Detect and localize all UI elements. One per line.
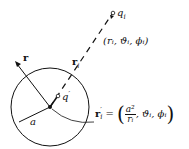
label-coords-i: (rᵢ, ϑᵢ, ϕᵢ) <box>103 36 148 46</box>
label-a: a <box>30 117 36 127</box>
label-qprime: q′ <box>62 91 70 102</box>
diagram-canvas <box>0 0 189 149</box>
ri-dashed-line <box>50 14 112 107</box>
ri-arrowhead-icon <box>110 15 114 19</box>
label-ri-prime-equation: r′i = ( a² rᵢ , ϑᵢ, ϕᵢ ) <box>95 104 174 124</box>
r-vector-line <box>17 64 50 107</box>
r-arrowhead-icon <box>15 61 21 67</box>
label-ri: ri <box>72 57 80 70</box>
center-dot <box>48 105 52 109</box>
label-r: r <box>23 53 28 63</box>
label-qi: qi <box>117 8 126 21</box>
image-charge-dot <box>56 94 60 98</box>
charge-qi-dot <box>111 11 115 15</box>
